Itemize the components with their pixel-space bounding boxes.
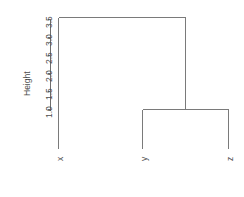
y-axis-tick-label-1.5: 1.5 [44, 88, 54, 100]
leaf-label-z: z [225, 157, 235, 161]
y-axis-tick-label-1.0: 1.0 [44, 106, 54, 118]
y-axis-tick-label-3.0: 3.0 [44, 34, 54, 46]
dendrogram-canvas [0, 0, 244, 197]
y-axis-tick-label-2.5: 2.5 [44, 52, 54, 64]
leaf-label-y: y [139, 157, 149, 161]
y-axis-tick-label-3.5: 3.5 [44, 16, 54, 28]
leaf-label-x: x [55, 157, 65, 161]
dendrogram-plot: Height 3.5 3.0 2.5 2.0 1.5 1.0 x y z [0, 0, 244, 197]
y-axis-title: Height [22, 71, 32, 96]
y-axis-tick-label-2.0: 2.0 [44, 70, 54, 82]
dendrogram-tree [59, 18, 229, 149]
